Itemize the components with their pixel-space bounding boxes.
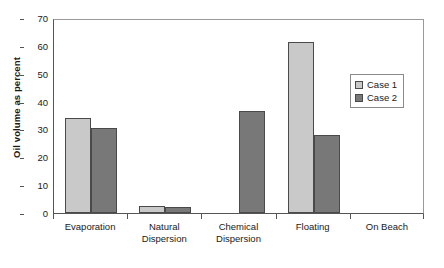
x-category-label-line: On Beach [350, 221, 424, 233]
legend-entry-case-1: Case 1 [355, 78, 397, 91]
x-category-label: NaturalDispersion [127, 221, 201, 245]
bar-case-2 [239, 111, 265, 213]
legend-entry-case-2: Case 2 [355, 91, 397, 104]
y-axis-tick-labels: 010203040506070 [24, 19, 48, 214]
y-axis-title-text: Oil volume as percent [11, 57, 22, 158]
y-tick-mark [20, 103, 24, 104]
legend-swatch-case-1 [355, 81, 363, 89]
bar-case-1 [288, 42, 314, 213]
bar-case-2 [165, 207, 191, 213]
figure-caption [14, 261, 314, 268]
bar-pair [54, 20, 128, 213]
bar-group [128, 20, 202, 213]
y-tick-mark [20, 47, 24, 48]
x-category-label-line: Dispersion [201, 233, 275, 245]
y-tick-label: 20 [24, 154, 48, 164]
y-tick-label: 70 [24, 14, 48, 24]
bar-group [54, 20, 128, 213]
bar-case-1 [139, 206, 165, 213]
bar-pair [202, 20, 276, 213]
x-category-label: On Beach [350, 221, 424, 233]
bars-layer [54, 20, 423, 213]
x-category-label-line: Chemical [201, 221, 275, 233]
bar-pair [351, 20, 425, 213]
x-axis-tick-marks [53, 214, 424, 219]
x-category-label-line: Evaporation [53, 221, 127, 233]
y-tick-label: 10 [24, 181, 48, 191]
x-tick-mark [127, 214, 128, 219]
x-category-label: Floating [276, 221, 350, 233]
bar-pair [128, 20, 202, 213]
y-tick-mark [20, 186, 24, 187]
bar-group [351, 20, 425, 213]
bar-chart-figure: Oil volume as percent 010203040506070 Ev… [0, 0, 444, 268]
bar-pair [277, 20, 351, 213]
y-tick-label: 30 [24, 126, 48, 136]
y-tick-mark [20, 158, 24, 159]
y-tick-mark [20, 130, 24, 131]
y-tick-mark [20, 75, 24, 76]
y-tick-label: 40 [24, 98, 48, 108]
y-tick-label: 0 [24, 209, 48, 219]
bar-case-2 [314, 135, 340, 213]
bar-case-1 [65, 118, 91, 213]
chart-legend: Case 1 Case 2 [350, 74, 404, 108]
y-tick-mark [20, 19, 24, 20]
x-tick-mark [53, 214, 54, 219]
legend-swatch-case-2 [355, 94, 363, 102]
plot-area [53, 19, 424, 214]
x-category-label: Evaporation [53, 221, 127, 233]
bar-group [277, 20, 351, 213]
x-tick-mark [276, 214, 277, 219]
legend-label-case-1: Case 1 [367, 80, 397, 90]
x-tick-mark [201, 214, 202, 219]
y-tick-label: 60 [24, 42, 48, 52]
x-category-label: ChemicalDispersion [201, 221, 275, 245]
y-tick-mark [20, 214, 24, 215]
x-category-label-line: Floating [276, 221, 350, 233]
y-tick-label: 50 [24, 70, 48, 80]
bar-case-2 [91, 128, 117, 213]
bar-group [202, 20, 276, 213]
x-category-label-line: Dispersion [127, 233, 201, 245]
x-tick-mark [350, 214, 351, 219]
legend-label-case-2: Case 2 [367, 93, 397, 103]
x-axis-category-labels: EvaporationNaturalDispersionChemicalDisp… [53, 221, 424, 265]
x-category-label-line: Natural [127, 221, 201, 233]
x-tick-mark [423, 214, 424, 219]
y-axis-title: Oil volume as percent [6, 0, 26, 215]
